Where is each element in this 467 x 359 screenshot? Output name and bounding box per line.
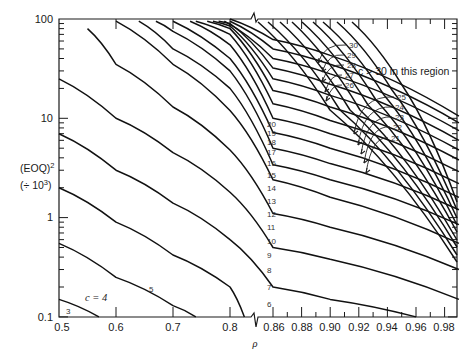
svg-text:21: 21: [391, 134, 400, 143]
svg-text:11: 11: [267, 223, 276, 232]
y-axis-title-line2: (÷ 103): [20, 178, 52, 191]
curves: [59, 19, 459, 317]
svg-text:9: 9: [267, 251, 272, 260]
svg-text:25: 25: [397, 93, 406, 102]
svg-text:18: 18: [267, 138, 276, 147]
svg-text:0.88: 0.88: [291, 321, 312, 333]
annotation-region-note: c > 30 in this region: [358, 65, 450, 77]
svg-text:0.6: 0.6: [108, 321, 123, 333]
curve-c-9: [116, 21, 459, 243]
svg-text:0.86: 0.86: [263, 321, 284, 333]
annotation-c-eq-4: c = 4: [85, 292, 108, 303]
svg-text:0.94: 0.94: [376, 321, 397, 333]
y-tick-label-0.1: 0.1: [38, 311, 53, 323]
svg-text:30: 30: [349, 41, 358, 50]
svg-text:0.5: 0.5: [54, 321, 69, 333]
svg-text:0.98: 0.98: [433, 321, 454, 333]
svg-text:7: 7: [267, 283, 272, 292]
svg-text:0.7: 0.7: [165, 321, 180, 333]
y-tick-label-100: 100: [35, 13, 53, 25]
y-tick-label-1: 1: [47, 211, 53, 223]
svg-text:0.90: 0.90: [319, 321, 340, 333]
curve-upper-27: [323, 22, 457, 218]
svg-text:8: 8: [267, 266, 272, 275]
svg-text:14: 14: [267, 184, 276, 193]
svg-text:28: 28: [347, 61, 356, 70]
svg-text:16: 16: [267, 159, 276, 168]
curve-c-10: [139, 21, 459, 224]
svg-text:17: 17: [267, 148, 276, 157]
svg-text:24: 24: [395, 103, 404, 112]
svg-text:26: 26: [345, 81, 354, 90]
svg-text:0.92: 0.92: [348, 321, 369, 333]
y-axis-title-line1: (EOQ)2: [20, 161, 55, 174]
x-axis-title: ρ: [251, 338, 257, 349]
svg-text:23: 23: [395, 113, 404, 122]
curve-c-4: [59, 243, 196, 317]
y-tick-label-10: 10: [41, 112, 53, 124]
svg-text:22: 22: [393, 123, 402, 132]
x-tick-labels: 0.5 0.6 0.7 0.8 0.86 0.88 0.90 0.92 0.94…: [54, 321, 454, 333]
curve-c-6: [59, 134, 416, 317]
svg-text:13: 13: [267, 197, 276, 206]
svg-text:12: 12: [267, 210, 276, 219]
svg-text:6: 6: [267, 300, 272, 309]
svg-text:0.8: 0.8: [222, 321, 237, 333]
svg-text:19: 19: [267, 129, 276, 138]
curve-label-3: 3: [66, 307, 71, 316]
svg-text:27: 27: [345, 71, 354, 80]
svg-text:0.96: 0.96: [405, 321, 426, 333]
curve-label-5: 5: [149, 285, 154, 294]
svg-text:20: 20: [267, 120, 276, 129]
chart-figure: 100 10 1 0.1 (EOQ)2 (÷ 103) 0.5 0.6 0.7 …: [0, 0, 467, 359]
svg-text:15: 15: [267, 171, 276, 180]
svg-text:10: 10: [267, 237, 276, 246]
svg-text:29: 29: [347, 51, 356, 60]
